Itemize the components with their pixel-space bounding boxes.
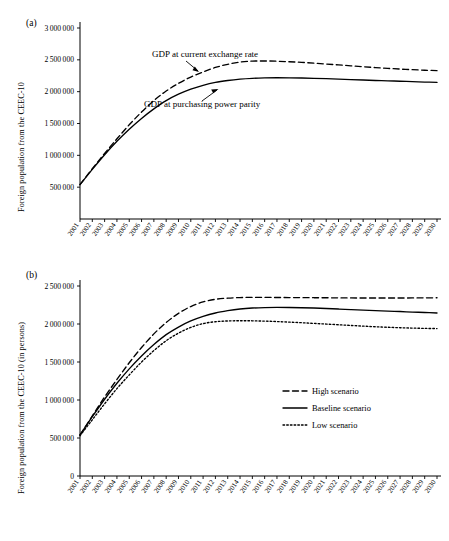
x-tick-label: 2017 <box>263 478 278 494</box>
x-tick-label: 2016 <box>251 478 266 494</box>
x-tick-label: 2016 <box>251 221 266 237</box>
cut-off-running-head: - - - - - - <box>0 0 449 2</box>
series-line-low-scenario <box>80 321 437 436</box>
x-tick-label: 2024 <box>349 221 364 237</box>
x-tick-label: 2028 <box>398 478 413 494</box>
x-tick-label: 2004 <box>103 478 118 494</box>
y-tick-label: 1 500 000 <box>44 119 74 128</box>
x-tick-label: 2021 <box>312 221 327 237</box>
x-tick-label: 2010 <box>177 221 192 237</box>
x-tick-label: 2009 <box>165 478 180 494</box>
figure-container: - - - - - - (a) Foreign population from … <box>0 0 449 541</box>
x-tick-label: 2001 <box>66 478 81 494</box>
panel-a: (a) Foreign population from the CEEC-10 … <box>0 14 449 270</box>
x-tick-label: 2017 <box>263 221 278 237</box>
annotation-label-0: GDP at current exchange rate <box>152 49 258 59</box>
x-tick-label: 2024 <box>349 478 364 494</box>
y-tick-label: 1 000 000 <box>44 396 74 405</box>
panel-b-plot: 0500 0001 000 0001 500 0002 000 0002 500… <box>0 266 449 541</box>
x-tick-label: 2027 <box>386 478 401 494</box>
x-tick-label: 2020 <box>300 221 315 237</box>
x-tick-label: 2022 <box>325 478 340 494</box>
x-tick-label: 2002 <box>78 478 93 494</box>
x-tick-label: 2028 <box>398 221 413 237</box>
legend-label-low-scenario: Low scenario <box>312 421 357 430</box>
x-tick-label: 2011 <box>189 478 204 494</box>
y-tick-label: 2 000 000 <box>44 320 74 329</box>
x-tick-label: 2014 <box>226 478 241 494</box>
series-line-high-scenario <box>80 297 437 435</box>
x-tick-label: 2030 <box>423 221 438 237</box>
x-tick-label: 2023 <box>337 221 352 237</box>
x-tick-label: 2026 <box>374 478 389 494</box>
y-tick-label: 1 500 000 <box>44 358 74 367</box>
x-tick-label: 2006 <box>128 221 143 237</box>
x-tick-label: 2029 <box>411 221 426 237</box>
x-tick-label: 2023 <box>337 478 352 494</box>
x-tick-label: 2008 <box>152 478 167 494</box>
y-tick-label: 500 000 <box>50 183 75 192</box>
annotation-arrowhead-1 <box>211 89 218 93</box>
y-tick-label: 2 000 000 <box>44 87 74 96</box>
y-tick-label: 1 000 000 <box>44 151 74 160</box>
legend-label-high-scenario: High scenario <box>312 387 359 396</box>
panel-b: (b) Foreign population from the CEEC-10 … <box>0 266 449 541</box>
x-tick-label: 2018 <box>275 221 290 237</box>
series-line-gdp-at-current-exchange-rate <box>80 61 437 185</box>
x-tick-label: 2025 <box>362 221 377 237</box>
x-tick-label: 2014 <box>226 221 241 237</box>
x-tick-label: 2021 <box>312 478 327 494</box>
series-line-gdp-at-purchasing-power-parity <box>80 78 437 185</box>
x-tick-label: 2012 <box>201 221 216 237</box>
y-tick-label: 2 500 000 <box>44 55 74 64</box>
x-tick-label: 2009 <box>165 221 180 237</box>
x-tick-label: 2001 <box>66 221 81 237</box>
x-tick-label: 2005 <box>115 221 130 237</box>
x-tick-label: 2013 <box>214 221 229 237</box>
x-tick-label: 2007 <box>140 478 155 494</box>
x-tick-label: 2008 <box>152 221 167 237</box>
y-tick-label: 2 500 000 <box>44 282 74 291</box>
panel-a-plot: 500 0001 000 0001 500 0002 000 0002 500 … <box>0 14 449 270</box>
x-tick-label: 2025 <box>362 478 377 494</box>
series-line-baseline-scenario <box>80 307 437 435</box>
x-tick-label: 2004 <box>103 221 118 237</box>
y-tick-label: 3 000 000 <box>44 24 74 33</box>
legend-label-baseline-scenario: Baseline scenario <box>312 404 371 413</box>
x-tick-label: 2006 <box>128 478 143 494</box>
x-tick-label: 2002 <box>78 221 93 237</box>
x-tick-label: 2010 <box>177 478 192 494</box>
x-tick-label: 2015 <box>238 478 253 494</box>
x-tick-label: 2022 <box>325 221 340 237</box>
x-tick-label: 2011 <box>189 221 204 237</box>
x-tick-label: 2005 <box>115 478 130 494</box>
x-tick-label: 2007 <box>140 221 155 237</box>
x-tick-label: 2013 <box>214 478 229 494</box>
x-tick-label: 2003 <box>91 478 106 494</box>
x-tick-label: 2020 <box>300 478 315 494</box>
x-tick-label: 2015 <box>238 221 253 237</box>
x-tick-label: 2019 <box>288 221 303 237</box>
x-tick-label: 2018 <box>275 478 290 494</box>
x-tick-label: 2027 <box>386 221 401 237</box>
x-tick-label: 2026 <box>374 221 389 237</box>
x-tick-label: 2012 <box>201 478 216 494</box>
x-tick-label: 2019 <box>288 478 303 494</box>
x-tick-label: 2029 <box>411 478 426 494</box>
x-tick-label: 2003 <box>91 221 106 237</box>
x-tick-label: 2030 <box>423 478 438 494</box>
y-tick-label: 500 000 <box>50 434 75 443</box>
